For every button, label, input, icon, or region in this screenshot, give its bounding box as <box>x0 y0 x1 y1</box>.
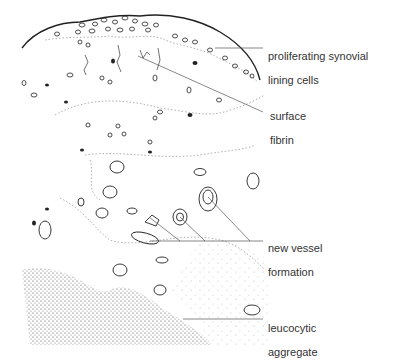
fibrin-strands <box>84 45 160 75</box>
label-line: new vessel <box>268 242 322 254</box>
label-line: formation <box>268 266 322 278</box>
label-line: fibrin <box>270 134 306 146</box>
lining-boundary <box>45 36 258 82</box>
label-leucocytic-aggregate: leucocytic aggregate <box>268 310 318 362</box>
synovial-surface-line <box>22 15 260 80</box>
scattered-cells <box>22 73 222 144</box>
label-line: lining cells <box>268 74 368 86</box>
dark-cells <box>32 59 198 226</box>
label-proliferating-synovial-lining-cells: proliferating synovial lining cells <box>268 38 368 98</box>
label-line: leucocytic <box>268 322 318 334</box>
label-line: surface <box>270 110 306 122</box>
label-surface-fibrin: surface fibrin <box>270 98 306 158</box>
label-line: proliferating synovial <box>268 50 368 62</box>
label-line: aggregate <box>268 346 318 358</box>
label-new-vessel-formation: new vessel formation <box>268 230 322 290</box>
